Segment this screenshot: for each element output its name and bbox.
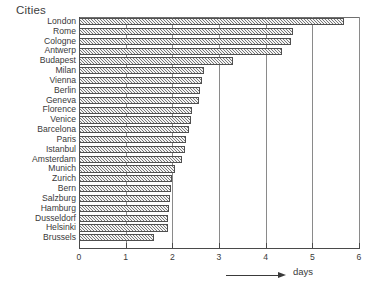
x-tick-label: 3 [209,252,229,262]
bar-row: Salzburg [79,194,359,204]
bar-row: Barcelona [79,125,359,135]
x-tick [266,243,267,249]
category-label: Hamburg [2,203,76,213]
category-label: Berlin [2,85,76,95]
bar [79,156,182,163]
x-tick [79,243,80,249]
bar-row: Amsterdam [79,155,359,165]
bar [79,185,171,192]
bar [79,77,202,84]
bar [79,107,192,114]
bar [79,165,175,172]
bar [79,67,204,74]
bar [79,224,168,231]
bar-row: Milan [79,66,359,76]
bar-row: Brussels [79,233,359,243]
bar-row: Dusseldorf [79,214,359,224]
bar-row: Florence [79,105,359,115]
bar-row: Hamburg [79,204,359,214]
category-label: Budapest [2,55,76,65]
category-label: Venice [2,114,76,124]
category-label: Dusseldorf [2,213,76,223]
x-tick-label: 4 [256,252,276,262]
bar [79,57,233,64]
bar-row: Venice [79,115,359,125]
bar [79,97,199,104]
category-label: Cologne [2,36,76,46]
bar [79,18,344,25]
arrow-head [278,272,286,278]
y-axis-title: Cities [16,4,46,16]
category-label: Amsterdam [2,154,76,164]
category-label: London [2,16,76,26]
x-axis-label: days [293,266,313,277]
x-tick [126,243,127,249]
category-label: Helsinki [2,222,76,232]
x-tick [219,243,220,249]
category-label: Milan [2,65,76,75]
bar [79,195,170,202]
bar-row: Geneva [79,96,359,106]
x-tick [359,243,360,249]
bar [79,234,154,241]
plot-area: LondonRomeCologneAntwerpBudapestMilanVie… [79,17,359,243]
arrow-shaft [226,275,280,276]
bar [79,215,168,222]
bar-row: Cologne [79,37,359,47]
bar-row: Bern [79,184,359,194]
bar-row: Helsinki [79,223,359,233]
category-label: Rome [2,26,76,36]
x-tick-label: 6 [349,252,369,262]
category-label: Paris [2,134,76,144]
bar-row: Rome [79,27,359,37]
bar [79,28,293,35]
x-tick [172,243,173,249]
x-tick-label: 5 [302,252,322,262]
x-tick [312,243,313,249]
bar-chart: Cities LondonRomeCologneAntwerpBudapestM… [0,0,378,295]
gridline-6 [359,17,360,243]
bar [79,87,200,94]
bar [79,146,185,153]
bar-row: Paris [79,135,359,145]
category-label: Zurich [2,173,76,183]
x-tick-label: 0 [69,252,89,262]
x-tick-label: 1 [116,252,136,262]
days-arrow-icon [226,272,288,279]
x-tick-label: 2 [162,252,182,262]
bar-row: Berlin [79,86,359,96]
bar [79,175,172,182]
category-label: Munich [2,163,76,173]
category-label: Barcelona [2,124,76,134]
bar [79,205,169,212]
bar-row: Vienna [79,76,359,86]
category-label: Florence [2,104,76,114]
bar-row: Istanbul [79,145,359,155]
category-label: Bern [2,183,76,193]
bar [79,116,191,123]
bar-row: London [79,17,359,27]
bar [79,38,291,45]
bar-row: Budapest [79,56,359,66]
category-label: Vienna [2,75,76,85]
bar [79,136,186,143]
bar-row: Zurich [79,174,359,184]
category-label: Istanbul [2,144,76,154]
bar-row: Antwerp [79,46,359,56]
bar [79,126,189,133]
category-label: Salzburg [2,193,76,203]
category-label: Antwerp [2,45,76,55]
bar [79,48,282,55]
category-label: Geneva [2,95,76,105]
category-label: Brussels [2,232,76,242]
bar-row: Munich [79,164,359,174]
